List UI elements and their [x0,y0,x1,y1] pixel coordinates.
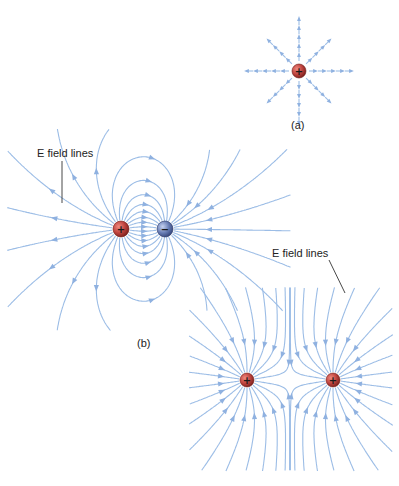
arrow-icon [297,16,301,21]
arrow-icon [51,237,58,242]
field-line [303,288,327,375]
arrow-icon [297,94,301,99]
arrow-icon [49,264,56,270]
arrow-icon [331,69,336,73]
field-line [295,287,326,377]
panel-a-single-charge: + (a) [244,16,354,131]
arrow-icon [346,337,351,344]
field-line [96,129,115,222]
field-line [290,381,325,470]
field-line [251,387,266,471]
field-line [119,180,167,221]
arrow-icon [241,339,246,346]
panel-b-like-charges: + + E field lines [189,247,393,471]
arrow-icon [345,415,350,422]
field-line [174,229,290,231]
arrow-icon [355,365,362,370]
arrow-icon [186,200,192,207]
arrow-icon [219,356,226,362]
like-charges-label-leader-line [329,260,345,293]
like-charge-left: + [240,373,254,387]
field-line [290,287,325,379]
minus-sign-icon: − [161,224,169,235]
arrow-icon [186,252,192,259]
field-line [119,237,167,278]
arrow-icon [349,69,354,73]
plus-sign-icon: + [329,375,337,386]
dipole-e-field-lines-label: E field lines [37,147,94,159]
arrow-icon [49,188,56,194]
field-line [333,388,354,471]
arrow-icon [297,103,301,108]
arrow-icon [297,25,301,30]
arrow-icon [354,398,361,404]
arrow-icon [145,275,152,280]
arrow-icon [141,224,147,229]
arrow-icon [141,233,148,238]
arrow-icon [142,252,149,257]
dipole-negative-charge: − [157,221,173,237]
field-line [57,129,114,224]
arrow-icon [355,390,362,395]
arrow-icon [218,373,225,378]
arrow-icon [141,238,148,243]
arrow-icon [271,69,276,73]
plus-sign-icon: + [117,224,125,235]
arrow-icon [323,413,328,419]
arrow-icon [297,34,301,39]
arrow-icon [141,229,147,234]
arrow-icon [207,205,214,210]
arrow-icon [207,249,214,254]
arrow-icon [142,244,149,249]
field-line [295,383,326,470]
arrow-icon [219,398,226,404]
plus-sign-icon: + [243,375,251,386]
arrow-icon [218,390,225,395]
arrow-icon [252,413,257,419]
arrow-icon [142,201,149,206]
arrow-icon [323,340,328,346]
arrow-icon [297,43,301,48]
arrow-icon [218,365,225,370]
arrow-icon [72,174,77,181]
arrow-icon [144,261,151,266]
arrow-icon [297,52,301,57]
field-line [253,385,277,471]
arrow-icon [206,227,212,232]
arrow-icon [51,216,58,221]
arrow-icon [297,85,301,90]
like-charges-field-lines [189,287,393,471]
arrow-icon [280,69,285,73]
field-line [255,381,290,470]
arrow-icon [72,278,77,285]
arrow-icon [313,341,318,348]
arrow-icon [297,112,301,117]
arrow-icon [303,345,308,352]
like-charge-right: + [326,373,340,387]
arrow-icon [94,168,99,174]
arrow-icon [141,220,148,225]
field-line [173,149,241,224]
like-charges-e-field-lines-label: E field lines [272,247,329,259]
field-line [314,387,329,471]
arrow-icon [294,351,299,358]
field-line [326,388,334,471]
arrow-icon [244,69,249,73]
arrow-icon [281,351,286,358]
arrow-icon [142,209,149,214]
field-line [254,383,285,470]
plus-sign-icon: + [295,66,303,77]
dipole-positive-charge: + [113,221,129,237]
arrow-icon [229,337,234,344]
arrow-icon [253,69,258,73]
arrow-icon [94,285,99,291]
arrow-icon [230,415,235,422]
arrow-icon [294,402,299,409]
field-line [333,288,355,372]
arrow-icon [252,340,257,346]
arrow-icon [218,382,225,387]
field-line [246,388,254,471]
arrow-icon [148,298,155,303]
arrow-icon [262,69,267,73]
arrow-icon [340,69,345,73]
